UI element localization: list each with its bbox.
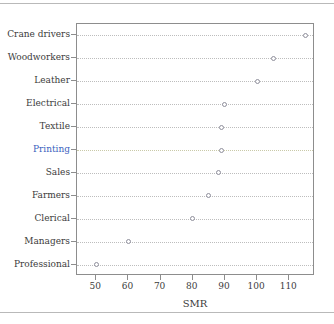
x-axis-tick [160,275,161,280]
data-point-marker[interactable] [216,170,221,175]
gridline [77,173,313,174]
x-axis-tick-label: 90 [218,281,229,291]
gridline [77,127,313,128]
y-axis-label-leather: Leather [34,75,70,85]
data-point-marker[interactable] [271,56,276,61]
gridline [77,104,313,105]
gridline [77,150,313,151]
x-axis-tick [256,275,257,280]
x-axis-tick-label: 60 [122,281,133,291]
y-axis-tick [71,126,76,127]
y-axis-tick [71,264,76,265]
gridline [77,242,313,243]
plot-panel [76,23,314,275]
y-axis-label-farmers: Farmers [32,190,70,200]
data-point-marker[interactable] [222,102,227,107]
gridline [77,58,313,59]
y-axis-tick [71,241,76,242]
gridline [77,35,313,36]
y-axis-label-managers: Managers [24,236,70,246]
x-axis-title: SMR [76,298,314,309]
y-axis-tick [71,195,76,196]
y-axis-label-professional: Professional [14,259,70,269]
y-axis-tick [71,57,76,58]
y-axis-label-printing: Printing [33,144,70,154]
gridline [77,219,313,220]
x-axis-tick [127,275,128,280]
y-axis-tick [71,80,76,81]
data-point-marker[interactable] [190,216,195,221]
y-axis-category-labels: Crane driversWoodworkersLeatherElectrica… [0,23,70,275]
y-axis-tick [71,103,76,104]
x-axis-tick-label: 70 [154,281,165,291]
gridline [77,196,313,197]
y-axis-label-woodworkers: Woodworkers [8,52,70,62]
data-point-marker[interactable] [219,125,224,130]
data-point-marker[interactable] [219,148,224,153]
y-axis-label-electrical: Electrical [26,98,70,108]
data-point-marker[interactable] [206,193,211,198]
data-point-marker[interactable] [94,262,99,267]
data-point-marker[interactable] [255,79,260,84]
x-axis-tick-label: 80 [186,281,197,291]
y-axis-label-clerical: Clerical [34,213,70,223]
gridline [77,81,313,82]
x-axis-tick [288,275,289,280]
y-axis-label-textile: Textile [40,121,70,131]
smr-dot-chart: Crane driversWoodworkersLeatherElectrica… [0,0,334,324]
y-axis-tick [71,34,76,35]
x-axis-tick-label: 100 [248,281,265,291]
x-axis-tick [95,275,96,280]
x-axis-tick [224,275,225,280]
x-axis-tick [192,275,193,280]
y-axis-label-crane-drivers: Crane drivers [7,29,70,39]
y-axis-tick [71,149,76,150]
x-axis-tick-label: 50 [90,281,101,291]
y-axis-tick [71,172,76,173]
x-axis-tick-layer: 5060708090100110 [0,275,334,295]
x-axis-tick-label: 110 [280,281,297,291]
data-point-marker[interactable] [303,33,308,38]
y-axis-label-sales: Sales [46,167,70,177]
data-point-marker[interactable] [126,239,131,244]
gridline [77,265,313,266]
y-axis-tick [71,218,76,219]
